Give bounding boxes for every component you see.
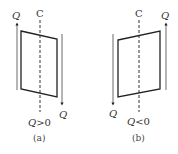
panel-caption: (a) bbox=[33, 133, 45, 143]
diagram-canvas: Q C Q Q>0 (a) C Q Q Q<0 (b) bbox=[0, 0, 178, 154]
condition-op: <0 bbox=[135, 116, 150, 127]
parallelogram-loop bbox=[21, 31, 57, 97]
condition-op: >0 bbox=[36, 117, 51, 128]
charge-label-bottom: Q bbox=[109, 108, 117, 119]
condition-symbol: Q bbox=[28, 117, 36, 128]
axis-label: C bbox=[135, 8, 143, 19]
axis-label: C bbox=[36, 8, 44, 19]
condition-symbol: Q bbox=[127, 116, 135, 127]
panel-caption: (b) bbox=[132, 133, 145, 143]
condition-label: Q<0 bbox=[127, 116, 150, 127]
charge-label-top: Q bbox=[12, 10, 20, 21]
panel-a: Q C Q Q>0 (a) bbox=[12, 8, 67, 143]
condition-label: Q>0 bbox=[28, 117, 51, 128]
charge-label-top: Q bbox=[161, 10, 169, 21]
panel-b: C Q Q Q<0 (b) bbox=[109, 8, 169, 143]
charge-label-bottom: Q bbox=[59, 109, 67, 120]
